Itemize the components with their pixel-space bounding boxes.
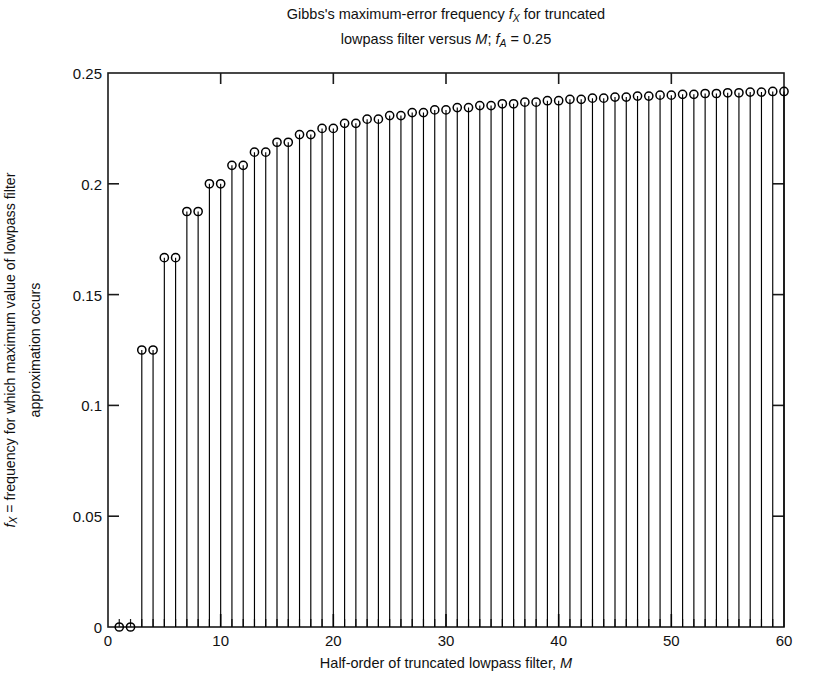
stem-plot xyxy=(0,0,816,683)
figure-canvas: Gibbs's maximum-error frequency fX for t… xyxy=(0,0,816,683)
